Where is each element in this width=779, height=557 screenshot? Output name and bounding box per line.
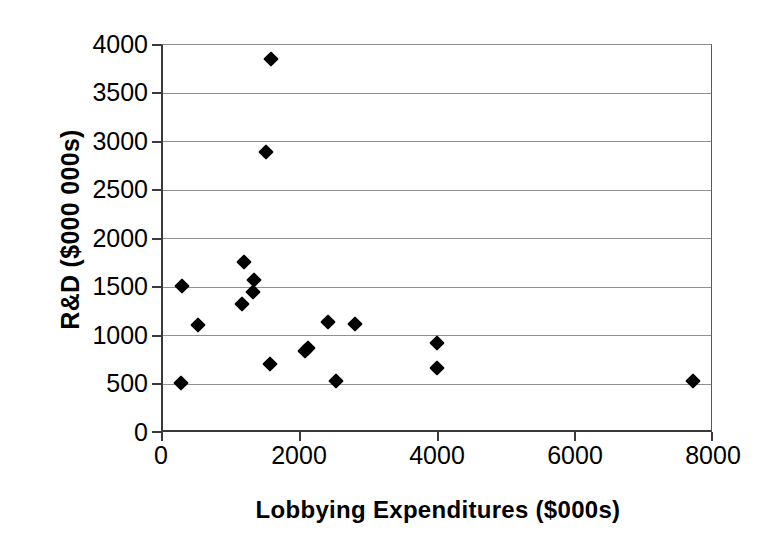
x-tick-mark-0	[161, 432, 163, 441]
x-tick-mark-8000	[711, 432, 713, 441]
y-tick-mark-500	[152, 383, 161, 385]
y-tick-mark-1000	[152, 335, 161, 337]
x-tick-mark-2000	[299, 432, 301, 441]
x-tick-label-2000: 2000	[244, 441, 354, 470]
x-tick-mark-4000	[437, 432, 439, 441]
y-tick-mark-4000	[152, 44, 161, 46]
x-tick-label-4000: 4000	[382, 441, 492, 470]
y-tick-mark-3500	[152, 92, 161, 94]
x-tick-label-8000: 8000	[658, 441, 768, 470]
y-tick-label-3500: 3500	[38, 78, 148, 107]
y-tick-label-1500: 1500	[38, 272, 148, 301]
y-tick-label-2000: 2000	[38, 224, 148, 253]
y-tick-label-2500: 2500	[38, 175, 148, 204]
plot-frame	[161, 44, 712, 432]
scatter-plot-figure: R&D ($000 000s) Lobbying Expenditures ($…	[0, 0, 779, 557]
y-tick-mark-3000	[152, 141, 161, 143]
plot-area	[161, 44, 712, 432]
x-tick-mark-6000	[574, 432, 576, 441]
y-tick-label-3000: 3000	[38, 127, 148, 156]
x-axis-title: Lobbying Expenditures ($000s)	[160, 496, 716, 524]
y-tick-mark-1500	[152, 286, 161, 288]
y-tick-mark-2500	[152, 189, 161, 191]
x-tick-label-6000: 6000	[520, 441, 630, 470]
y-tick-label-500: 500	[38, 369, 148, 398]
y-tick-mark-2000	[152, 238, 161, 240]
y-tick-mark-0	[152, 431, 161, 433]
x-tick-label-0: 0	[106, 441, 216, 470]
y-tick-label-1000: 1000	[38, 321, 148, 350]
y-tick-label-4000: 4000	[38, 30, 148, 59]
